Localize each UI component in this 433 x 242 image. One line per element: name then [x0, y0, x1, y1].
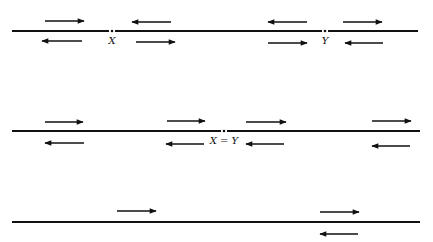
point-marker: [111, 30, 114, 33]
point-label: X: [107, 35, 116, 46]
point-label: X = Y: [209, 135, 240, 146]
line-1: XY: [12, 21, 418, 46]
line-2: X = Y: [12, 121, 420, 146]
diagram-canvas: XYX = Y: [0, 0, 433, 242]
point-marker: [223, 130, 226, 133]
point-label: Y: [322, 35, 330, 46]
line-3: [12, 211, 420, 234]
point-marker: [324, 30, 327, 33]
